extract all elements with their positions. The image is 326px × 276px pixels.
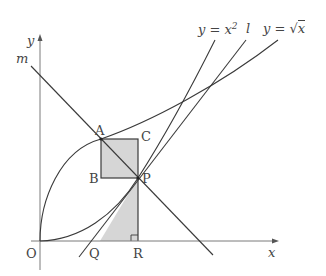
sqrt-label: y = √x <box>263 22 305 35</box>
line-m-label: m <box>16 52 28 65</box>
point-a-label: A <box>95 124 104 137</box>
y-axis-label: y <box>27 34 34 47</box>
parabola-label-text: y = x <box>198 22 232 37</box>
parabola-exponent: 2 <box>232 21 238 31</box>
parabola-label: y = x2 <box>198 22 238 36</box>
sqrt-label-prefix: y = <box>263 21 290 36</box>
x-axis-arrow-icon <box>272 239 279 244</box>
origin-label: O <box>26 247 37 260</box>
sqrt-curve <box>40 40 278 241</box>
point-p <box>136 176 139 179</box>
line-l-label: l <box>246 22 250 35</box>
point-p-label: P <box>142 172 151 185</box>
point-c-label: C <box>141 130 151 143</box>
diagram-canvas: y m O x y = x2 l y = √x A C B P Q R <box>0 0 326 276</box>
point-q-label: Q <box>89 247 100 260</box>
sqrt-radicand: x <box>298 20 305 36</box>
x-axis-label: x <box>268 246 275 259</box>
diagram-svg <box>0 0 326 276</box>
point-b-label: B <box>89 172 99 185</box>
point-r-label: R <box>133 247 143 260</box>
radical-sign-icon: √ <box>290 21 298 36</box>
y-axis-arrow-icon <box>38 34 43 41</box>
